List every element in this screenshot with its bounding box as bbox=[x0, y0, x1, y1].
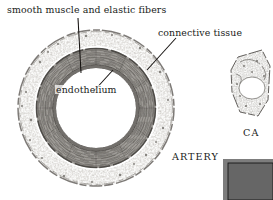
artery-cross-section-figure: smooth muscle and elastic fibers connect… bbox=[0, 0, 273, 200]
micrograph-inset bbox=[228, 163, 273, 200]
lumen bbox=[56, 68, 136, 148]
caption-artery: ARTERY bbox=[172, 152, 219, 162]
caption-capillary: CA bbox=[243, 128, 259, 138]
label-endothelium: endothelium bbox=[55, 85, 118, 94]
label-smooth-muscle-and-elastic-fibers: smooth muscle and elastic fibers bbox=[7, 5, 166, 14]
label-connective-tissue: connective tissue bbox=[158, 28, 242, 37]
